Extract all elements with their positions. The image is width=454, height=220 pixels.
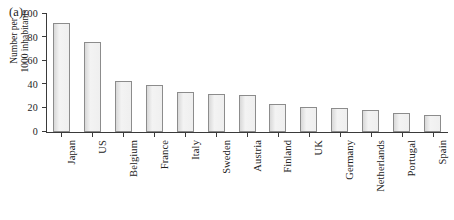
x-tick-label: Finland	[282, 140, 293, 173]
x-tick-label: Belgium	[128, 140, 139, 177]
x-tick-label: Italy	[190, 140, 201, 160]
bar	[177, 92, 194, 132]
bar	[269, 104, 286, 132]
bar	[393, 113, 410, 132]
y-axis-ticks: 020406080100	[0, 0, 46, 220]
y-tick-label: 40	[27, 79, 42, 89]
bar	[115, 81, 132, 132]
bar-series	[46, 13, 448, 132]
x-tick-label: US	[97, 140, 108, 154]
bar	[239, 95, 256, 132]
y-tick-label: 80	[27, 32, 42, 42]
bar	[208, 94, 225, 132]
x-tick-mark	[247, 133, 248, 137]
x-tick-mark	[185, 133, 186, 137]
x-tick-mark	[340, 133, 341, 137]
y-tick-label: 0	[33, 127, 42, 137]
x-tick-mark	[123, 133, 124, 137]
x-axis-labels: JapanUSBelgiumFranceItalySwedenAustriaFi…	[46, 140, 448, 218]
bar	[331, 108, 348, 132]
x-tick-label: Germany	[344, 140, 355, 180]
x-tick-label: Japan	[66, 140, 77, 164]
x-tick-mark	[216, 133, 217, 137]
bar	[300, 107, 317, 132]
bar	[84, 42, 101, 132]
y-tick-label: 60	[27, 56, 42, 66]
x-tick-mark	[433, 133, 434, 137]
bar	[362, 110, 379, 132]
x-tick-mark	[309, 133, 310, 137]
x-tick-label: Austria	[252, 140, 263, 172]
x-tick-mark	[371, 133, 372, 137]
x-tick-mark	[92, 133, 93, 137]
x-tick-label: UK	[313, 140, 324, 155]
x-tick-mark	[61, 133, 62, 137]
x-tick-mark	[154, 133, 155, 137]
x-axis-ticks	[46, 133, 448, 137]
bar	[424, 115, 441, 132]
y-tick-label: 100	[22, 9, 42, 19]
bar	[146, 85, 163, 132]
x-tick-mark	[278, 133, 279, 137]
x-tick-label: Netherlands	[375, 140, 386, 192]
figure-panel-a: (a) Number per 1000 inhabitants 02040608…	[0, 0, 454, 220]
bar	[53, 23, 70, 132]
y-tick-label: 20	[27, 103, 42, 113]
x-tick-mark	[402, 133, 403, 137]
x-tick-label: Spain	[437, 140, 448, 164]
x-tick-label: Sweden	[221, 140, 232, 174]
x-tick-label: France	[159, 140, 170, 169]
x-tick-label: Portugal	[406, 140, 417, 176]
